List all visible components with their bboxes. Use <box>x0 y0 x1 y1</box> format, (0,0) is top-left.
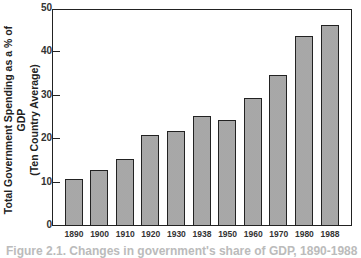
bar-1910 <box>116 159 134 225</box>
bar-1938 <box>193 116 211 225</box>
bar-1930 <box>167 131 185 225</box>
bar-1950 <box>218 120 236 225</box>
y-tick-label: 20 <box>41 132 52 143</box>
y-tick-label: 50 <box>41 2 52 13</box>
y-tick-label: 30 <box>41 89 52 100</box>
bar-1988 <box>321 25 339 225</box>
bar-1890 <box>65 179 83 225</box>
bar-1900 <box>90 170 108 225</box>
bar-1960 <box>244 98 262 225</box>
y-axis-label-line-2: (Ten Country Average) <box>28 15 41 225</box>
y-tick-label: 40 <box>41 45 52 56</box>
x-tick-label: 1988 <box>315 229 345 239</box>
bar-1920 <box>141 135 159 225</box>
y-axis-label: Total Government Spending as a % of GDP … <box>2 15 36 225</box>
plot-area <box>52 9 352 226</box>
figure-caption: Figure 2.1. Changes in government's shar… <box>6 244 357 258</box>
y-tick-label: 10 <box>41 176 52 187</box>
bar-1970 <box>269 75 287 225</box>
y-axis-label-line-1: Total Government Spending as a % of GDP <box>2 15 28 225</box>
bar-1980 <box>295 36 313 225</box>
